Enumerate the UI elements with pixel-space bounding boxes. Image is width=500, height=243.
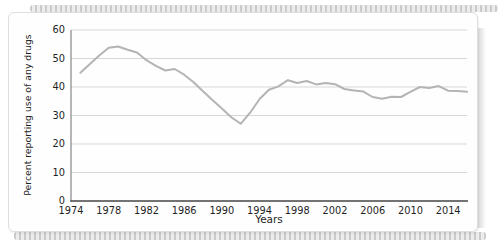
y-tick-20: 20 <box>53 138 65 149</box>
x-tick-2006: 2006 <box>360 205 385 216</box>
y-tick-60: 60 <box>53 24 65 35</box>
x-tick-1974: 1974 <box>59 205 84 216</box>
x-tick-1978: 1978 <box>96 205 121 216</box>
x-tick-2002: 2002 <box>323 205 348 216</box>
x-tick-1986: 1986 <box>172 205 197 216</box>
scan-shadow-bottom <box>14 232 486 240</box>
scan-shadow-right <box>477 28 486 228</box>
y-axis-title: Percent reporting use of any drugs <box>22 34 33 196</box>
x-tick-1990: 1990 <box>209 205 234 216</box>
line-chart: 0102030405060 19741978198219861990199419… <box>9 13 477 231</box>
x-tick-2010: 2010 <box>398 205 423 216</box>
y-tick-10: 10 <box>53 167 65 178</box>
y-tick-labels: 0102030405060 <box>53 24 65 206</box>
y-tick-30: 30 <box>53 110 65 121</box>
y-tick-40: 40 <box>53 81 65 92</box>
figure-card: 0102030405060 19741978198219861990199419… <box>8 12 478 232</box>
x-tick-1982: 1982 <box>134 205 159 216</box>
x-axis-title: Years <box>254 213 283 225</box>
scan-shadow-top <box>30 5 498 12</box>
y-tick-50: 50 <box>53 53 65 64</box>
x-tick-1998: 1998 <box>285 205 310 216</box>
x-tick-2014: 2014 <box>436 205 461 216</box>
page: 0102030405060 19741978198219861990199419… <box>0 0 500 243</box>
